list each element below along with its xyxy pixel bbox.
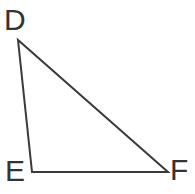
triangle-def-outline <box>18 40 168 172</box>
triangle-diagram: D E F <box>0 0 195 194</box>
vertex-label-f: F <box>170 155 188 185</box>
vertex-label-e: E <box>5 156 25 186</box>
vertex-label-d: D <box>4 5 26 35</box>
triangle-svg <box>0 0 195 194</box>
